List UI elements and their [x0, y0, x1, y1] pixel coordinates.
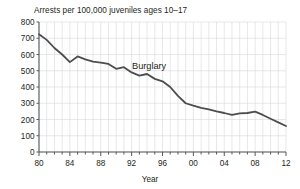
y-tick-label: 100 — [21, 132, 35, 141]
x-tick-label: 08 — [251, 159, 261, 168]
y-tick-label: 800 — [21, 18, 35, 27]
x-tick-label: 84 — [65, 159, 75, 168]
y-tick-label: 500 — [21, 67, 35, 76]
burglary-arrest-rate-chart: Arrests per 100,000 juveniles ages 10–17… — [0, 0, 300, 189]
y-axis-tick-labels: 0100200300400500600700800 — [21, 18, 35, 157]
y-tick-label: 600 — [21, 51, 35, 60]
y-tick-label: 300 — [21, 99, 35, 108]
x-tick-label: 00 — [189, 159, 199, 168]
y-tick-label: 0 — [30, 148, 35, 157]
x-axis-ticks — [39, 152, 286, 156]
series-annotation-burglary: Burglary — [132, 61, 167, 71]
x-axis-title: Year — [0, 175, 300, 184]
x-tick-label: 80 — [34, 159, 44, 168]
y-tick-label: 400 — [21, 83, 35, 92]
y-tick-label: 700 — [21, 34, 35, 43]
x-tick-label: 96 — [158, 159, 168, 168]
chart-plot-area: 0100200300400500600700800 80848892960004… — [0, 0, 300, 189]
x-axis-tick-labels: 808488929600040812 — [34, 159, 291, 168]
x-tick-label: 04 — [220, 159, 230, 168]
x-tick-label: 92 — [127, 159, 137, 168]
y-tick-label: 200 — [21, 116, 35, 125]
x-tick-label: 12 — [281, 159, 291, 168]
x-tick-label: 88 — [96, 159, 106, 168]
